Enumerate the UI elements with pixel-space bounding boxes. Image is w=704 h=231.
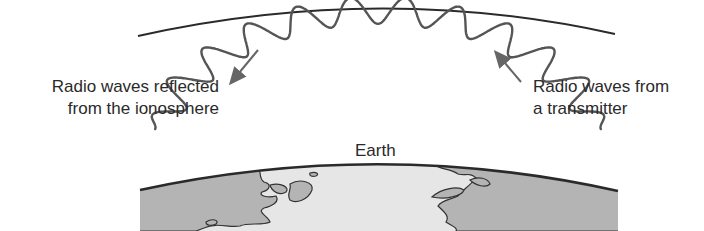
reflected-label-line1: Radio waves reflected xyxy=(52,76,219,98)
reflected-label-line2: from the ionosphere xyxy=(52,98,219,120)
transmitter-label-line2: a transmitter xyxy=(533,98,669,120)
reflected-direction-arrow-icon xyxy=(234,50,258,79)
transmitter-label-line1: Radio waves from xyxy=(533,76,669,98)
reflected-waves-label: Radio waves reflected from the ionospher… xyxy=(52,76,219,120)
transmitter-waves-label: Radio waves from a transmitter xyxy=(533,76,669,120)
landmass-left xyxy=(130,166,277,231)
earth-label: Earth xyxy=(355,140,396,162)
earth-surface xyxy=(130,164,630,231)
ionosphere-line xyxy=(138,8,615,36)
transmitter-direction-arrow-icon xyxy=(499,56,521,82)
